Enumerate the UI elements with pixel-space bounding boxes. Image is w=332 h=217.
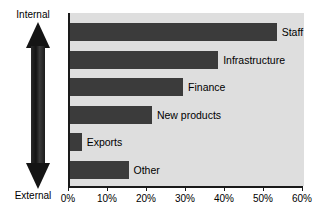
x-axis-tick-label: 30% [175,193,195,204]
x-axis-tick [185,186,186,191]
external-axis-label: External [0,190,66,201]
x-axis-tick-label: 10% [97,193,117,204]
x-axis-tick [68,186,69,191]
x-axis-tick-label: 40% [214,193,234,204]
bar-row: New products [70,106,221,124]
bar-row: Staff [70,23,303,41]
bar-label: New products [152,106,221,124]
bar-row: Other [70,161,160,179]
internal-axis-label: Internal [0,9,66,20]
x-axis-tick [224,186,225,191]
double-headed-arrow-icon [22,22,54,189]
bar [70,51,218,69]
x-axis-tick-label: 20% [136,193,156,204]
chart-page: Internal External StaffInfrastructureFin… [0,0,332,217]
bar-row: Finance [70,78,225,96]
internal-external-axis: Internal External [0,0,68,217]
bar [70,23,277,41]
bar [70,106,152,124]
x-axis-tick [263,186,264,191]
bar [70,161,129,179]
bar-row: Infrastructure [70,51,285,69]
x-axis-tick [107,186,108,191]
bar [70,78,183,96]
x-axis-tick-label: 60% [292,193,312,204]
x-axis-tick [146,186,147,191]
x-axis-tick-label: 0% [61,193,75,204]
bar-label: Staff [277,23,303,41]
bar-row: Exports [70,133,122,151]
x-axis-tick-label: 50% [253,193,273,204]
bar-label: Other [129,161,160,179]
x-axis-tick [302,186,303,191]
bar-label: Finance [183,78,225,96]
plot-area: StaffInfrastructureFinanceNew productsEx… [68,13,304,186]
bar [70,133,82,151]
bar-label: Exports [82,133,123,151]
bar-label: Infrastructure [218,51,285,69]
